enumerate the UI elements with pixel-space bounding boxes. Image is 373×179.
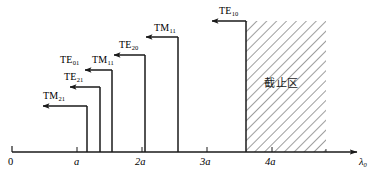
mode-label-te10: TE10: [219, 6, 238, 16]
mode-line-tm21: [43, 106, 87, 152]
tick-label-4a: 4a: [265, 157, 276, 168]
waveguide-cutoff-chart: TM21 TE21 TE01 TM11 TE20 TM11 TE10 截止区 0…: [0, 0, 373, 179]
mode-label-tm11-low: TM11: [92, 55, 114, 65]
mode-line-te21: [70, 87, 100, 152]
mode-step-lines: [43, 21, 246, 152]
tick-label-3a: 3a: [200, 157, 211, 168]
mode-line-te20: [114, 55, 145, 152]
mode-label-tm11-high: TM11: [154, 23, 176, 33]
x-axis-label: λ0: [359, 157, 367, 168]
cutoff-region-label: 截止区: [264, 78, 299, 89]
mode-line-tm11-high: [146, 37, 178, 152]
tick-label-0: 0: [8, 157, 13, 168]
mode-label-te01: TE01: [60, 55, 79, 65]
mode-label-tm21: TM21: [43, 91, 65, 101]
tick-label-a: a: [74, 157, 79, 168]
mode-line-te10: [212, 21, 246, 152]
mode-label-te20: TE20: [119, 40, 138, 50]
mode-label-te21: TE21: [64, 72, 83, 82]
mode-line-te01-tm11: [85, 70, 112, 152]
tick-label-2a: 2a: [135, 157, 146, 168]
